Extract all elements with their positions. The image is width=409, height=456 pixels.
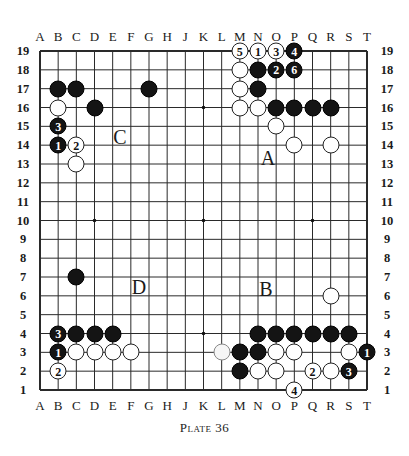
- row-label-left: 3: [20, 346, 26, 359]
- row-label-left: 13: [17, 158, 30, 171]
- white-stone: [50, 99, 67, 116]
- column-label-bottom: L: [218, 399, 226, 412]
- column-label-bottom: H: [162, 399, 171, 412]
- region-marker-d: D: [132, 277, 146, 297]
- row-label-left: 8: [20, 252, 26, 265]
- column-label-top: Q: [308, 30, 317, 43]
- column-label-top: L: [218, 30, 226, 43]
- column-label-bottom: N: [253, 399, 262, 412]
- black-stone: [86, 325, 103, 342]
- board-grid: [0, 0, 409, 456]
- column-label-bottom: T: [363, 399, 371, 412]
- column-label-top: E: [109, 30, 117, 43]
- plate-caption: Plate 36: [0, 420, 409, 436]
- row-label-right: 7: [384, 271, 390, 284]
- row-label-right: 1: [384, 384, 390, 397]
- black-stone: [104, 325, 121, 342]
- column-label-top: G: [144, 30, 153, 43]
- column-label-bottom: R: [326, 399, 335, 412]
- row-label-left: 14: [17, 139, 30, 152]
- white-stone: [213, 344, 230, 361]
- black-stone: [68, 80, 85, 97]
- black-stone: [50, 80, 67, 97]
- column-label-bottom: M: [234, 399, 246, 412]
- column-label-top: O: [271, 30, 280, 43]
- column-label-top: K: [199, 30, 208, 43]
- column-label-bottom: C: [72, 399, 81, 412]
- white-stone: [322, 137, 339, 154]
- white-stone: [231, 80, 248, 97]
- column-label-bottom: S: [345, 399, 352, 412]
- black-stone: [231, 363, 248, 380]
- black-stone-move-1: 1: [50, 344, 67, 361]
- column-label-top: R: [326, 30, 335, 43]
- white-stone: [268, 344, 285, 361]
- black-stone: [286, 325, 303, 342]
- white-stone: [268, 118, 285, 135]
- row-label-left: 15: [17, 120, 30, 133]
- white-stone: [340, 344, 357, 361]
- white-stone: [68, 156, 85, 173]
- black-stone: [268, 99, 285, 116]
- row-label-right: 9: [384, 233, 390, 246]
- column-label-bottom: G: [144, 399, 153, 412]
- row-label-right: 12: [381, 177, 394, 190]
- row-label-right: 13: [381, 158, 394, 171]
- black-stone-move-6: 6: [286, 61, 303, 78]
- white-stone: [286, 344, 303, 361]
- row-label-right: 14: [381, 139, 394, 152]
- white-stone: [322, 287, 339, 304]
- column-label-top: S: [345, 30, 352, 43]
- black-stone: [250, 61, 267, 78]
- black-stone: [322, 325, 339, 342]
- white-stone: [250, 99, 267, 116]
- black-stone: [322, 99, 339, 116]
- column-label-bottom: P: [291, 399, 298, 412]
- column-label-top: D: [90, 30, 99, 43]
- column-label-bottom: O: [271, 399, 280, 412]
- black-stone: [340, 325, 357, 342]
- column-label-bottom: F: [127, 399, 134, 412]
- column-label-top: H: [162, 30, 171, 43]
- row-label-right: 8: [384, 252, 390, 265]
- star-point: [202, 219, 206, 223]
- row-label-right: 3: [384, 346, 390, 359]
- star-point: [202, 332, 206, 336]
- white-stone: [268, 363, 285, 380]
- black-stone-move-1: 1: [50, 137, 67, 154]
- row-label-right: 19: [381, 45, 394, 58]
- row-label-right: 15: [381, 120, 394, 133]
- row-label-right: 6: [384, 290, 390, 303]
- white-stone-move-2: 2: [68, 137, 85, 154]
- white-stone-move-4: 4: [286, 382, 303, 399]
- row-label-left: 18: [17, 64, 30, 77]
- row-label-left: 11: [17, 195, 29, 208]
- column-label-top: A: [35, 30, 44, 43]
- white-stone: [250, 363, 267, 380]
- black-stone: [250, 325, 267, 342]
- white-stone-move-1: 1: [250, 43, 267, 60]
- white-stone: [231, 61, 248, 78]
- row-label-right: 5: [384, 308, 390, 321]
- row-label-right: 18: [381, 64, 394, 77]
- column-label-top: M: [234, 30, 246, 43]
- row-label-right: 4: [384, 327, 390, 340]
- row-label-left: 2: [20, 365, 26, 378]
- black-stone: [268, 325, 285, 342]
- region-marker-b: B: [259, 279, 272, 299]
- white-stone-move-2: 2: [304, 363, 321, 380]
- column-label-top: P: [291, 30, 298, 43]
- black-stone: [250, 344, 267, 361]
- white-stone: [104, 344, 121, 361]
- black-stone-move-3: 3: [50, 325, 67, 342]
- white-stone: [68, 344, 85, 361]
- row-label-left: 17: [17, 82, 30, 95]
- row-label-left: 9: [20, 233, 26, 246]
- row-label-left: 4: [20, 327, 26, 340]
- star-point: [311, 219, 315, 223]
- row-label-right: 16: [381, 101, 394, 114]
- column-label-top: F: [127, 30, 134, 43]
- black-stone-move-2: 2: [268, 61, 285, 78]
- row-label-right: 11: [381, 195, 393, 208]
- white-stone: [122, 344, 139, 361]
